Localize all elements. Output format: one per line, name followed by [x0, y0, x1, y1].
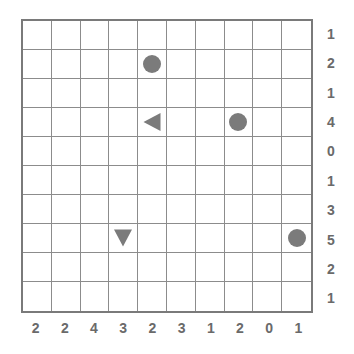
grid-cell-r5-c2[interactable] [81, 166, 110, 195]
grid-cell-r8-c1[interactable] [52, 253, 81, 282]
grid-cell-r8-c4[interactable] [138, 253, 167, 282]
grid-cell-r4-c4[interactable] [138, 137, 167, 166]
grid-cell-r9-c0[interactable] [23, 282, 52, 311]
grid-cell-r5-c0[interactable] [23, 166, 52, 195]
grid-cell-r3-c3[interactable] [109, 108, 138, 137]
grid-cell-r2-c8[interactable] [253, 79, 282, 108]
grid-cell-r2-c0[interactable] [23, 79, 52, 108]
grid-cell-r8-c5[interactable] [167, 253, 196, 282]
grid-cell-r9-c7[interactable] [225, 282, 254, 311]
grid-cell-r5-c9[interactable] [282, 166, 311, 195]
grid-cell-r8-c8[interactable] [253, 253, 282, 282]
grid-cell-r1-c9[interactable] [282, 50, 311, 79]
grid-cell-r6-c8[interactable] [253, 195, 282, 224]
grid-cell-r3-c4[interactable] [138, 108, 167, 137]
grid-cell-r1-c0[interactable] [23, 50, 52, 79]
grid-cell-r1-c6[interactable] [196, 50, 225, 79]
grid-cell-r4-c7[interactable] [225, 137, 254, 166]
grid-cell-r7-c4[interactable] [138, 224, 167, 253]
grid-cell-r1-c5[interactable] [167, 50, 196, 79]
grid-cell-r4-c0[interactable] [23, 137, 52, 166]
grid-cell-r4-c1[interactable] [52, 137, 81, 166]
grid-cell-r3-c1[interactable] [52, 108, 81, 137]
grid-cell-r7-c6[interactable] [196, 224, 225, 253]
grid-cell-r2-c5[interactable] [167, 79, 196, 108]
grid-cell-r4-c3[interactable] [109, 137, 138, 166]
grid-cell-r7-c3[interactable] [109, 224, 138, 253]
grid-cell-r8-c2[interactable] [81, 253, 110, 282]
grid-cell-r2-c2[interactable] [81, 79, 110, 108]
grid-cell-r7-c1[interactable] [52, 224, 81, 253]
grid-cell-r4-c8[interactable] [253, 137, 282, 166]
grid-cell-r4-c2[interactable] [81, 137, 110, 166]
grid-cell-r3-c5[interactable] [167, 108, 196, 137]
grid-cell-r7-c8[interactable] [253, 224, 282, 253]
grid-cell-r6-c5[interactable] [167, 195, 196, 224]
grid-cell-r1-c7[interactable] [225, 50, 254, 79]
grid-cell-r7-c5[interactable] [167, 224, 196, 253]
grid-cell-r2-c3[interactable] [109, 79, 138, 108]
grid-cell-r6-c2[interactable] [81, 195, 110, 224]
grid-cell-r6-c4[interactable] [138, 195, 167, 224]
grid-cell-r9-c8[interactable] [253, 282, 282, 311]
grid-cell-r2-c1[interactable] [52, 79, 81, 108]
grid-cell-r7-c0[interactable] [23, 224, 52, 253]
grid-cell-r0-c0[interactable] [23, 21, 52, 50]
grid-cell-r8-c6[interactable] [196, 253, 225, 282]
grid-cell-r7-c9[interactable] [282, 224, 311, 253]
grid-cell-r6-c6[interactable] [196, 195, 225, 224]
grid-cell-r5-c5[interactable] [167, 166, 196, 195]
grid-cell-r9-c6[interactable] [196, 282, 225, 311]
grid-cell-r0-c2[interactable] [81, 21, 110, 50]
grid-cell-r7-c2[interactable] [81, 224, 110, 253]
grid-cell-r2-c9[interactable] [282, 79, 311, 108]
grid-cell-r9-c1[interactable] [52, 282, 81, 311]
grid-cell-r5-c3[interactable] [109, 166, 138, 195]
grid-cell-r0-c8[interactable] [253, 21, 282, 50]
grid-cell-r5-c6[interactable] [196, 166, 225, 195]
grid-cell-r4-c9[interactable] [282, 137, 311, 166]
grid-cell-r5-c4[interactable] [138, 166, 167, 195]
grid-cell-r3-c0[interactable] [23, 108, 52, 137]
grid-cell-r6-c0[interactable] [23, 195, 52, 224]
grid-cell-r3-c2[interactable] [81, 108, 110, 137]
grid-cell-r9-c5[interactable] [167, 282, 196, 311]
grid-cell-r1-c4[interactable] [138, 50, 167, 79]
grid-cell-r7-c7[interactable] [225, 224, 254, 253]
grid-cell-r1-c1[interactable] [52, 50, 81, 79]
grid-cell-r0-c4[interactable] [138, 21, 167, 50]
grid-cell-r4-c6[interactable] [196, 137, 225, 166]
grid-cell-r5-c7[interactable] [225, 166, 254, 195]
grid-cell-r6-c9[interactable] [282, 195, 311, 224]
grid-cell-r1-c8[interactable] [253, 50, 282, 79]
grid-cell-r9-c2[interactable] [81, 282, 110, 311]
grid-cell-r8-c0[interactable] [23, 253, 52, 282]
grid-cell-r1-c2[interactable] [81, 50, 110, 79]
grid-cell-r5-c8[interactable] [253, 166, 282, 195]
grid-cell-r6-c7[interactable] [225, 195, 254, 224]
grid-cell-r9-c4[interactable] [138, 282, 167, 311]
grid-cell-r1-c3[interactable] [109, 50, 138, 79]
grid-cell-r5-c1[interactable] [52, 166, 81, 195]
grid-cell-r3-c6[interactable] [196, 108, 225, 137]
grid-cell-r0-c1[interactable] [52, 21, 81, 50]
grid-cell-r6-c3[interactable] [109, 195, 138, 224]
grid-cell-r2-c6[interactable] [196, 79, 225, 108]
grid-cell-r2-c7[interactable] [225, 79, 254, 108]
grid-cell-r3-c8[interactable] [253, 108, 282, 137]
grid-cell-r0-c9[interactable] [282, 21, 311, 50]
grid-cell-r6-c1[interactable] [52, 195, 81, 224]
grid-cell-r0-c3[interactable] [109, 21, 138, 50]
grid-cell-r9-c3[interactable] [109, 282, 138, 311]
grid-cell-r9-c9[interactable] [282, 282, 311, 311]
grid-cell-r3-c7[interactable] [225, 108, 254, 137]
grid-cell-r3-c9[interactable] [282, 108, 311, 137]
grid-cell-r0-c7[interactable] [225, 21, 254, 50]
grid-cell-r8-c7[interactable] [225, 253, 254, 282]
grid-cell-r4-c5[interactable] [167, 137, 196, 166]
grid-cell-r0-c6[interactable] [196, 21, 225, 50]
grid-cell-r2-c4[interactable] [138, 79, 167, 108]
grid-cell-r8-c9[interactable] [282, 253, 311, 282]
grid-cell-r0-c5[interactable] [167, 21, 196, 50]
grid-cell-r8-c3[interactable] [109, 253, 138, 282]
